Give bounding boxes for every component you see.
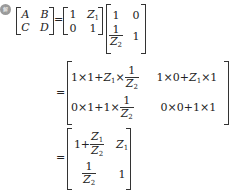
result-matrix: 1+Z1Z2 Z1 1Z2 1 [67, 128, 131, 190]
expanded-matrix: 1×1+Z1×1Z2 1×0+Z1×1 0×1+1×1Z2 0×0+1×1 [67, 61, 229, 125]
equals-sign-3: = [56, 151, 65, 164]
answer-badge-icon: 解 [0, 4, 11, 15]
lhs-matrix: AB CD [16, 7, 54, 35]
equals-sign: = [54, 13, 63, 26]
equals-sign-2: = [56, 86, 65, 99]
matrix-2: 10 1Z2 1 [106, 4, 146, 54]
matrix-1: 1Z1 01 [63, 7, 103, 35]
